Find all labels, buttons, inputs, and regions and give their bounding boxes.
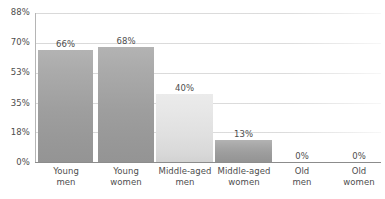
category-label-middle-aged-men: Middle-aged men	[153, 166, 217, 188]
bar-chart: 88% 70% 53% 35% 18% 0% 66% 68%	[0, 0, 385, 199]
category-label-middle-aged-women: Middle-aged women	[212, 166, 276, 188]
category-label-old-women: Old women	[330, 166, 385, 188]
bar-middle-aged-men[interactable]	[156, 94, 213, 162]
category-label-line2: men	[273, 177, 331, 188]
category-label-line1: Young	[95, 166, 157, 177]
bar-group-old-women[interactable]: 0%	[332, 13, 385, 162]
bar-label-old-women: 0%	[332, 152, 385, 161]
category-label-line2: women	[95, 177, 157, 188]
bar-group-middle-aged-women[interactable]: 13%	[215, 13, 272, 162]
category-label-line2: women	[330, 177, 385, 188]
y-tick-label: 88%	[11, 8, 30, 17]
category-label-old-men: Old men	[273, 166, 331, 188]
bar-label-middle-aged-men: 40%	[156, 84, 213, 93]
bar-label-young-women: 68%	[98, 37, 154, 46]
category-label-line1: Young	[35, 166, 97, 177]
bar-label-old-men: 0%	[275, 152, 329, 161]
y-axis: 88% 70% 53% 35% 18% 0%	[0, 0, 33, 199]
bar-group-old-men[interactable]: 0%	[275, 13, 329, 162]
category-label-young-men: Young men	[35, 166, 97, 188]
category-label-line1: Old	[273, 166, 331, 177]
bar-label-young-men: 66%	[38, 40, 93, 49]
category-label-line1: Middle-aged	[153, 166, 217, 177]
bar-group-young-men[interactable]: 66%	[38, 13, 93, 162]
x-axis-line	[35, 162, 381, 163]
y-tick-label: 70%	[11, 38, 30, 47]
bar-young-women[interactable]	[98, 47, 154, 162]
category-label-line1: Middle-aged	[212, 166, 276, 177]
plot-area: 66% 68% 40% 13% 0%	[35, 13, 383, 162]
y-tick-label: 35%	[11, 99, 30, 108]
bar-middle-aged-women[interactable]	[215, 140, 272, 162]
y-tick-label: 53%	[11, 68, 30, 77]
bar-group-middle-aged-men[interactable]: 40%	[156, 13, 213, 162]
bar-label-middle-aged-women: 13%	[215, 130, 272, 139]
bars-layer: 66% 68% 40% 13% 0%	[35, 13, 383, 162]
bar-young-men[interactable]	[38, 50, 93, 162]
x-axis-categories: Young men Young women Middle-aged men Mi…	[35, 166, 383, 199]
category-label-line2: women	[212, 177, 276, 188]
category-label-line1: Old	[330, 166, 385, 177]
category-label-young-women: Young women	[95, 166, 157, 188]
y-tick-label: 0%	[16, 158, 30, 167]
category-label-line2: men	[35, 177, 97, 188]
bar-group-young-women[interactable]: 68%	[98, 13, 154, 162]
y-tick-label: 18%	[11, 128, 30, 137]
category-label-line2: men	[153, 177, 217, 188]
